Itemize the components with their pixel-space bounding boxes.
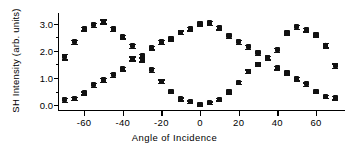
- y-tick-major: [54, 105, 59, 106]
- x-tick-label: 0: [180, 117, 220, 128]
- marker: [140, 53, 145, 58]
- x-tick-label: 60: [296, 117, 336, 128]
- marker: [255, 50, 260, 55]
- x-axis-label: Angle of Incidence: [0, 132, 349, 143]
- marker: [236, 39, 241, 44]
- marker: [178, 30, 183, 35]
- y-tick-major: [54, 24, 59, 25]
- marker: [313, 89, 318, 94]
- plot-area: [59, 14, 345, 110]
- x-tick: [200, 111, 201, 116]
- x-tick: [123, 111, 124, 116]
- marker: [207, 20, 212, 25]
- marker: [333, 63, 338, 68]
- x-tick-label: -20: [141, 117, 181, 128]
- marker: [111, 26, 116, 31]
- y-tick-major: [54, 78, 59, 79]
- x-tick: [277, 111, 278, 116]
- marker: [197, 21, 202, 26]
- x-tick: [316, 111, 317, 116]
- y-tick-label: 0.0: [40, 100, 53, 111]
- marker: [304, 27, 309, 32]
- marker: [333, 95, 338, 100]
- marker: [149, 45, 154, 50]
- marker: [168, 36, 173, 41]
- y-tick-minor: [56, 37, 59, 38]
- marker: [111, 72, 116, 77]
- y-tick-label: 3.0: [40, 18, 53, 29]
- marker: [284, 30, 289, 35]
- marker: [82, 90, 87, 95]
- marker: [188, 99, 193, 104]
- marker: [217, 97, 222, 102]
- marker: [294, 76, 299, 81]
- marker: [91, 82, 96, 87]
- marker: [120, 34, 125, 39]
- marker: [265, 55, 270, 60]
- marker: [275, 65, 280, 70]
- marker: [246, 69, 251, 74]
- marker: [304, 81, 309, 86]
- marker: [323, 43, 328, 48]
- error-bar-cap: [71, 44, 77, 45]
- y-tick-label: 2.0: [40, 45, 53, 56]
- marker: [275, 47, 280, 52]
- marker: [294, 24, 299, 29]
- marker: [168, 89, 173, 94]
- y-tick-minor: [56, 92, 59, 93]
- marker: [72, 39, 77, 44]
- marker: [159, 39, 164, 44]
- x-tick: [161, 111, 162, 116]
- x-tick-label: 20: [219, 117, 259, 128]
- marker: [217, 25, 222, 30]
- x-tick: [84, 111, 85, 116]
- marker: [159, 79, 164, 84]
- y-axis-ticklabels: 0.01.02.03.0: [25, 14, 53, 110]
- marker: [62, 54, 67, 59]
- marker: [188, 26, 193, 31]
- marker: [313, 32, 318, 37]
- y-axis-label: SH Intensity (arb. units): [10, 3, 21, 119]
- marker: [101, 19, 106, 24]
- marker: [197, 102, 202, 107]
- marker: [149, 67, 154, 72]
- figure: SH Intensity (arb. units) 0.01.02.03.0 -…: [0, 0, 349, 152]
- marker: [226, 33, 231, 38]
- marker: [226, 89, 231, 94]
- y-tick-minor: [56, 64, 59, 65]
- marker: [178, 96, 183, 101]
- marker: [284, 70, 289, 75]
- marker: [255, 62, 260, 67]
- marker: [236, 80, 241, 85]
- marker: [323, 94, 328, 99]
- y-tick-label: 1.0: [40, 72, 53, 83]
- marker: [62, 97, 67, 102]
- marker: [207, 100, 212, 105]
- marker: [72, 96, 77, 101]
- marker: [120, 66, 125, 71]
- marker: [82, 26, 87, 31]
- marker: [101, 77, 106, 82]
- x-tick: [239, 111, 240, 116]
- y-tick-major: [54, 51, 59, 52]
- x-tick-label: -40: [103, 117, 143, 128]
- x-tick-label: 40: [257, 117, 297, 128]
- marker: [130, 43, 135, 48]
- error-bar-cap: [62, 59, 68, 60]
- x-tick-label: -60: [64, 117, 104, 128]
- marker: [91, 22, 96, 27]
- marker: [130, 56, 135, 61]
- marker: [246, 44, 251, 49]
- x-axis-ticklabels: -60-40-200204060: [0, 117, 349, 129]
- error-bar-cap: [332, 68, 338, 69]
